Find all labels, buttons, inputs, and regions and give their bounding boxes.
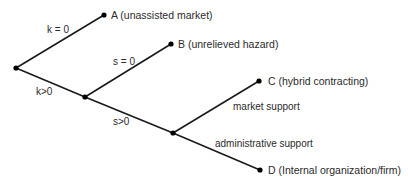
leaf-node-d xyxy=(257,167,262,172)
k-positive-node xyxy=(82,94,87,99)
leaf-label-d: D (Internal organization/firm) xyxy=(268,164,401,176)
edge-k-node-to-b xyxy=(85,44,171,97)
edge-label-s-zero: s = 0 xyxy=(113,56,135,68)
edge-label-administrative-support: administrative support xyxy=(215,138,313,150)
leaf-node-b xyxy=(168,41,173,46)
edge-label-market-support: market support xyxy=(233,101,300,113)
leaf-label-c: C (hybrid contracting) xyxy=(268,75,368,87)
leaf-label-b: B (unrelieved hazard) xyxy=(178,38,278,50)
edge-label-k-positive: k>0 xyxy=(36,86,52,98)
s-positive-node xyxy=(170,130,175,135)
edge-label-k-zero: k = 0 xyxy=(47,24,69,36)
leaf-label-a: A (unassisted market) xyxy=(111,9,213,21)
edge-root-to-a xyxy=(16,15,104,68)
edge-label-s-positive: s>0 xyxy=(113,116,129,128)
leaf-node-a xyxy=(101,12,106,17)
leaf-node-c xyxy=(256,78,261,83)
root-node xyxy=(13,65,18,70)
